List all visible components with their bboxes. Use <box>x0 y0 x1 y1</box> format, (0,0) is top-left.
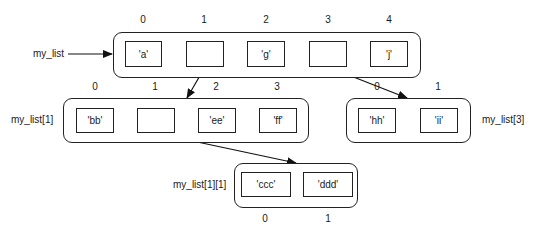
my-list-cell-4: 'j' <box>370 41 408 67</box>
my-list-1-index-0: 0 <box>85 81 105 92</box>
my-list-1-cell-0: 'bb' <box>76 108 114 133</box>
my-list-1-index-1: 1 <box>145 81 165 92</box>
my-list-1-1-cell-0: 'ccc' <box>241 172 291 197</box>
my-list-3-cell-1: 'ii' <box>420 108 458 133</box>
my-list-1-index-2: 2 <box>206 81 226 92</box>
my-list-index-1: 1 <box>194 14 214 25</box>
my-list-3-index-0: 0 <box>367 81 387 92</box>
my-list-3-index-1: 1 <box>428 81 448 92</box>
diagram-canvas: my_list 0 1 2 3 4 'a' 'g' 'j' my_list[1]… <box>0 0 537 235</box>
my-list-index-0: 0 <box>133 14 153 25</box>
my-list-1-label: my_list[1] <box>11 114 53 125</box>
my-list-index-3: 3 <box>318 14 338 25</box>
my-list-cell-0: 'a' <box>125 41 162 67</box>
my-list-1-index-3: 3 <box>267 81 287 92</box>
my-list-cell-2: 'g' <box>247 41 285 67</box>
my-list-3-label: my_list[3] <box>482 114 524 125</box>
my-list-1-cell-2: 'ee' <box>198 108 236 133</box>
my-list-index-4: 4 <box>379 14 399 25</box>
my-list-1-1-label: my_list[1][1] <box>173 179 226 190</box>
my-list-index-2: 2 <box>256 14 276 25</box>
my-list-cell-1 <box>186 41 224 67</box>
my-list-label: my_list <box>33 48 64 59</box>
my-list-1-cell-3: 'ff' <box>259 108 297 133</box>
my-list-3-cell-0: 'hh' <box>358 108 396 133</box>
my-list-1-1-cell-1: 'ddd' <box>303 172 353 197</box>
my-list-1-1-index-0: 0 <box>255 213 275 224</box>
my-list-cell-3 <box>309 41 347 67</box>
my-list-1-cell-1 <box>137 108 175 133</box>
my-list-1-1-index-1: 1 <box>318 213 338 224</box>
